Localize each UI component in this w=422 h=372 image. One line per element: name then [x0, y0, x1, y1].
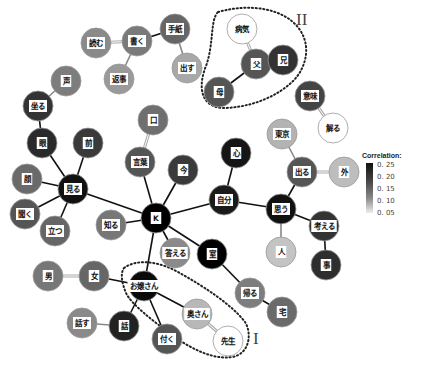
node-me[interactable]: 眼 — [27, 128, 57, 158]
node-kangaeru[interactable]: 考える — [309, 211, 339, 241]
node-omou[interactable]: 思う — [266, 194, 296, 224]
node-label: 自分 — [217, 195, 232, 205]
legend-tick: 0. 05 — [377, 209, 395, 217]
legend-title: Correlation: — [362, 152, 422, 159]
node-label: 出す — [180, 63, 195, 73]
node-label: 東京 — [275, 129, 290, 139]
legend-gradient-bar — [366, 163, 373, 213]
node-taku[interactable]: 宅 — [267, 297, 297, 327]
node-label: 前 — [85, 138, 93, 148]
node-byouki[interactable]: 病気 — [227, 14, 257, 44]
node-jibun[interactable]: 自分 — [209, 185, 239, 215]
node-dasu[interactable]: 出す — [172, 53, 202, 83]
node-label: 見る — [65, 184, 80, 194]
node-kaku[interactable]: 書く — [122, 26, 152, 56]
node-label: 言葉 — [133, 157, 148, 167]
node-hanasu[interactable]: 話す — [67, 308, 97, 338]
node-otoko[interactable]: 男 — [33, 261, 63, 291]
network-graph: 読む書く手紙出す返事声坐る眼前顔見る聞く立つ口言葉今知るK答える心自分東京出る外… — [0, 0, 422, 372]
node-soto[interactable]: 外 — [329, 157, 359, 187]
node-kao[interactable]: 顔 — [12, 164, 42, 194]
node-label: 立つ — [48, 226, 62, 236]
node-koto[interactable]: 事 — [311, 250, 341, 280]
node-shiru[interactable]: 知る — [96, 210, 126, 240]
node-tegami[interactable]: 手紙 — [160, 14, 190, 44]
node-label: 室 — [209, 249, 217, 259]
node-label: 読む — [89, 38, 104, 48]
node-koe[interactable]: 声 — [51, 66, 81, 96]
node-henji[interactable]: 返事 — [104, 64, 134, 94]
node-hanashi[interactable]: 話 — [109, 311, 139, 341]
node-label: 宅 — [279, 307, 287, 317]
node-label: 思う — [274, 205, 288, 214]
node-wakaru[interactable]: 解る — [318, 113, 348, 143]
node-label: 今 — [179, 165, 188, 175]
group-label-II: II — [296, 10, 307, 30]
node-label: 聞く — [18, 209, 32, 219]
node-label: 兄 — [279, 56, 288, 65]
node-mae[interactable]: 前 — [73, 128, 103, 158]
node-label: 話す — [75, 318, 90, 328]
node-label: 父 — [252, 60, 261, 69]
node-label: 先生 — [221, 336, 236, 346]
node-label: 母 — [216, 88, 224, 97]
node-kaeru[interactable]: 帰る — [235, 278, 265, 308]
node-label: 顔 — [23, 174, 32, 184]
node-label: 考える — [314, 221, 335, 231]
node-label: 女 — [91, 271, 99, 281]
node-K[interactable]: K — [141, 203, 171, 233]
node-label: 心 — [233, 148, 241, 158]
legend-tick: 0. 10 — [377, 197, 395, 205]
node-okusan[interactable]: 奥さん — [182, 299, 212, 329]
node-ojousan[interactable]: お嬢さん — [128, 271, 161, 301]
node-label: 人 — [278, 248, 286, 257]
node-suwaru[interactable]: 坐る — [23, 91, 53, 121]
node-label: 付く — [160, 334, 174, 344]
node-kotoba[interactable]: 言葉 — [125, 147, 155, 177]
node-label: 奥さん — [186, 309, 209, 319]
node-label: 解る — [326, 123, 340, 133]
node-label: 事 — [323, 260, 331, 270]
legend-tick: 0. 15 — [377, 185, 395, 193]
node-tokyo[interactable]: 東京 — [267, 119, 297, 149]
node-label: 男 — [45, 272, 52, 281]
node-label: 話 — [121, 321, 129, 331]
node-label: 帰る — [243, 288, 257, 298]
node-label: 返事 — [112, 74, 127, 84]
node-miru[interactable]: 見る — [58, 174, 88, 204]
legend-tick: 0. 20 — [377, 173, 395, 181]
node-hito[interactable]: 人 — [266, 237, 296, 267]
node-label: お嬢さん — [130, 281, 159, 291]
nodes-layer: 読む書く手紙出す返事声坐る眼前顔見る聞く立つ口言葉今知るK答える心自分東京出る外… — [10, 14, 359, 356]
node-kuchi[interactable]: 口 — [138, 105, 168, 135]
node-label: 知る — [104, 220, 118, 230]
node-kiku[interactable]: 聞く — [10, 199, 40, 229]
node-label: 眼 — [39, 139, 47, 148]
node-label: 意味 — [303, 91, 318, 101]
node-label: 出る — [295, 167, 309, 177]
node-imi[interactable]: 意味 — [295, 81, 325, 111]
group-label-I: I — [253, 329, 259, 349]
node-label: 口 — [150, 116, 157, 125]
node-shitsu[interactable]: 室 — [197, 239, 227, 269]
node-kotaeru[interactable]: 答える — [160, 238, 190, 268]
node-tsuku[interactable]: 付く — [152, 324, 182, 354]
legend-tick: 0. 25 — [377, 161, 395, 169]
node-chichi[interactable]: 父 — [241, 49, 271, 79]
node-deru[interactable]: 出る — [287, 157, 317, 187]
node-ima[interactable]: 今 — [168, 155, 198, 185]
node-label: 外 — [341, 167, 349, 177]
node-label: 坐る — [31, 101, 45, 111]
node-label: 手紙 — [168, 24, 183, 34]
node-haha[interactable]: 母 — [204, 77, 234, 107]
node-tatsu[interactable]: 立つ — [40, 216, 70, 246]
correlation-legend: Correlation: 0. 25 0. 20 0. 15 0. 10 0. … — [362, 152, 422, 159]
node-label: 書く — [130, 36, 144, 46]
node-onna[interactable]: 女 — [79, 261, 109, 291]
node-label: 答える — [165, 248, 186, 258]
node-label: 声 — [62, 76, 71, 86]
node-ani[interactable]: 兄 — [268, 45, 298, 75]
node-kokoro[interactable]: 心 — [221, 138, 251, 168]
node-yomu[interactable]: 読む — [81, 28, 111, 58]
node-sensei[interactable]: 先生 — [213, 326, 243, 356]
